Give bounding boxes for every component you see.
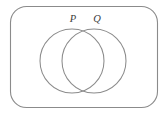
- set-label-p: P: [69, 13, 77, 24]
- universal-set-rectangle: [11, 7, 158, 108]
- venn-diagram-figure: P Q: [0, 0, 168, 114]
- venn-diagram-canvas: P Q: [0, 0, 168, 114]
- set-label-q: Q: [93, 13, 101, 24]
